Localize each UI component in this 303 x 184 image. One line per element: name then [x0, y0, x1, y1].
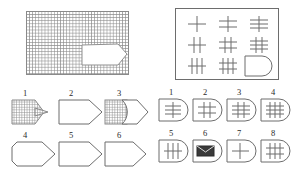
- figure-stage: 1 2 3 4 5 6: [0, 0, 303, 184]
- left-option-number-4: 4: [18, 131, 32, 140]
- matrix-cell-r1c3: [244, 13, 275, 34]
- right-option-number-7: 7: [232, 129, 246, 138]
- right-option-4[interactable]: [260, 98, 292, 122]
- right-option-8[interactable]: [260, 139, 292, 163]
- left-option-number-1: 1: [18, 89, 32, 98]
- left-option-1[interactable]: [11, 99, 51, 125]
- right-option-7[interactable]: [226, 139, 258, 163]
- matrix-cell-r3c2: [212, 55, 243, 77]
- left-option-number-5: 5: [64, 131, 78, 140]
- matrix-cell-r3c1: [181, 55, 212, 77]
- left-option-6[interactable]: [104, 141, 148, 167]
- right-option-number-2: 2: [198, 88, 212, 97]
- right-option-5[interactable]: [158, 139, 190, 163]
- left-option-3[interactable]: [104, 99, 150, 125]
- right-option-3[interactable]: [226, 98, 258, 122]
- left-option-2[interactable]: [58, 99, 104, 125]
- left-option-number-6: 6: [112, 131, 126, 140]
- right-option-number-4: 4: [266, 88, 280, 97]
- left-option-4[interactable]: [11, 141, 57, 167]
- matrix-grid: [181, 13, 275, 77]
- matrix-cell-r2c3: [244, 34, 275, 55]
- notch-outline: [82, 44, 127, 65]
- right-option-number-3: 3: [232, 88, 246, 97]
- matrix-cell-r1c1: [181, 13, 212, 34]
- matrix-cell-r3c3-missing: [244, 55, 275, 77]
- right-option-1[interactable]: [158, 98, 190, 122]
- matrix-cell-r2c1: [181, 34, 212, 55]
- right-option-number-1: 1: [164, 88, 178, 97]
- right-option-number-6: 6: [198, 129, 212, 138]
- right-option-6[interactable]: [192, 139, 224, 163]
- left-option-number-3: 3: [112, 89, 126, 98]
- right-option-2[interactable]: [192, 98, 224, 122]
- matrix-cell-r2c2: [212, 34, 243, 55]
- matrix-panel: [175, 8, 279, 80]
- right-option-number-8: 8: [266, 129, 280, 138]
- left-option-number-2: 2: [64, 89, 78, 98]
- matrix-cell-r1c2: [212, 13, 243, 34]
- main-figure-hatched-rectangle: [26, 11, 129, 75]
- right-option-number-5: 5: [164, 129, 178, 138]
- left-option-5[interactable]: [58, 141, 104, 167]
